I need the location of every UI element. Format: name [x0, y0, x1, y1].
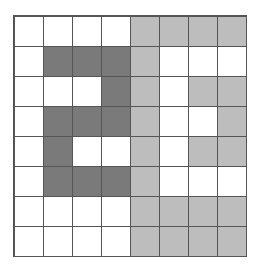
grid-cell: [72, 226, 102, 257]
grid-cell: [72, 76, 102, 107]
grid-cell: [43, 196, 73, 227]
grid-cell: [130, 106, 160, 137]
grid-cell: [188, 106, 218, 137]
grid-cell: [188, 226, 218, 257]
grid-cell: [188, 16, 218, 47]
grid-cell: [217, 196, 247, 227]
grid-cell: [72, 166, 102, 197]
grid-cell: [159, 106, 189, 137]
grid-cell: [43, 166, 73, 197]
grid-cell: [101, 76, 131, 107]
grid-cell: [72, 136, 102, 167]
grid-cell: [72, 16, 102, 47]
grid-cell: [43, 16, 73, 47]
grid-cell: [14, 16, 44, 47]
grid-cell: [159, 46, 189, 77]
grid-cell: [159, 196, 189, 227]
grid-cell: [14, 166, 44, 197]
grid-cell: [101, 196, 131, 227]
grid-cell: [43, 226, 73, 257]
grid-cell: [72, 46, 102, 77]
grid-cell: [217, 106, 247, 137]
grid-cell: [14, 226, 44, 257]
grid-cell: [130, 136, 160, 167]
grid-cell: [101, 106, 131, 137]
grid-cell: [130, 196, 160, 227]
grid-cell: [217, 16, 247, 47]
grid-cell: [130, 166, 160, 197]
grid-cell: [43, 46, 73, 77]
grid-cell: [130, 226, 160, 257]
grid-cell: [14, 76, 44, 107]
grid-cell: [14, 106, 44, 137]
grid-cell: [101, 226, 131, 257]
grid-cell: [43, 76, 73, 107]
grid-cell: [159, 226, 189, 257]
grid-cell: [159, 76, 189, 107]
grid-cell: [101, 46, 131, 77]
grid-cell: [217, 76, 247, 107]
grid-cell: [217, 136, 247, 167]
grid-cell: [130, 46, 160, 77]
grid-cell: [101, 16, 131, 47]
grid-cell: [188, 136, 218, 167]
grid-cell: [101, 166, 131, 197]
grid-cell: [217, 46, 247, 77]
grid-cell: [14, 136, 44, 167]
grid-cell: [188, 76, 218, 107]
grid-cell: [101, 136, 131, 167]
grid-cell: [130, 16, 160, 47]
grid-cell: [14, 196, 44, 227]
grid-cell: [130, 76, 160, 107]
pixel-grid: [13, 15, 247, 257]
grid-cell: [217, 166, 247, 197]
grid-cell: [43, 106, 73, 137]
grid-cell: [188, 46, 218, 77]
grid-cell: [14, 46, 44, 77]
grid-cell: [217, 226, 247, 257]
grid-cell: [188, 196, 218, 227]
grid-cell: [159, 16, 189, 47]
grid-cell: [72, 106, 102, 137]
grid-cell: [159, 166, 189, 197]
grid-cell: [72, 196, 102, 227]
grid-cell: [43, 136, 73, 167]
grid-cell: [159, 136, 189, 167]
grid-cell: [188, 166, 218, 197]
